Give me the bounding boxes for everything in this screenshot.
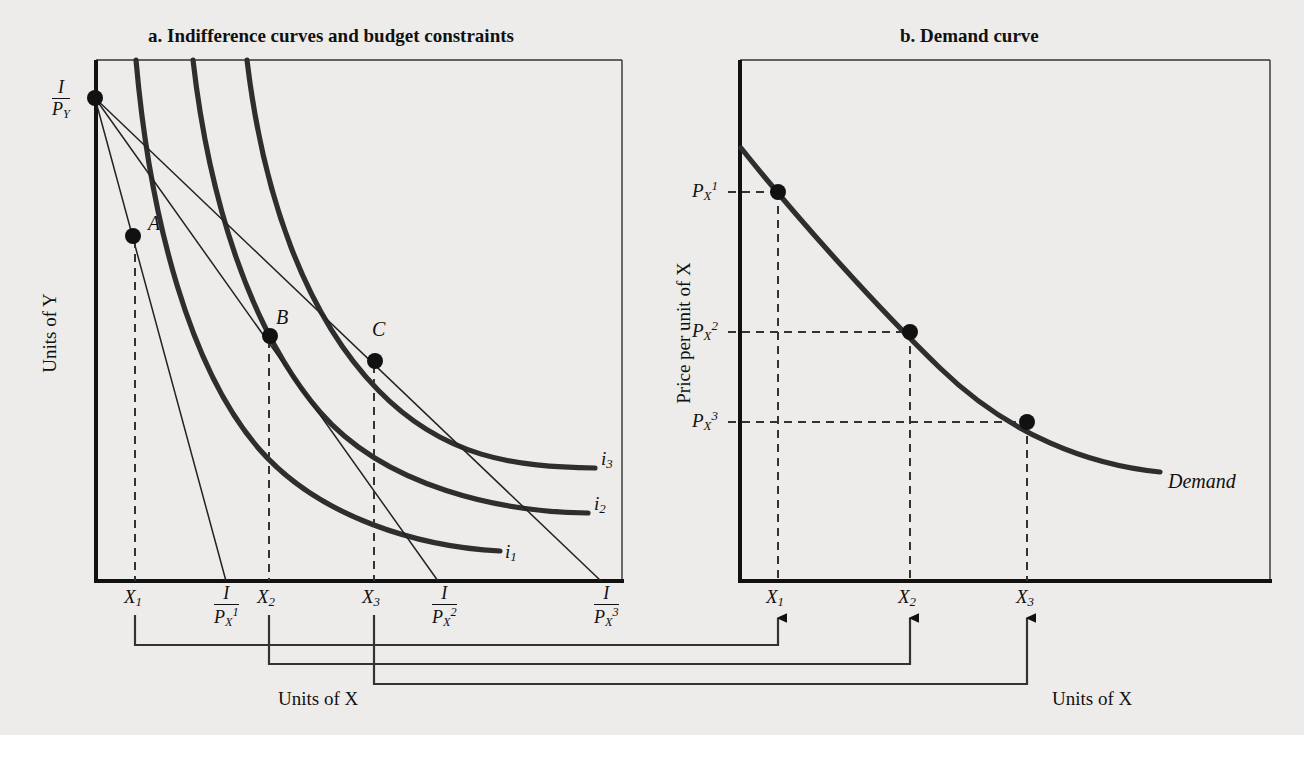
budget-constraint-2: [95, 98, 438, 581]
panel-a-xtick-x1: X1: [124, 586, 142, 610]
point-c: [367, 353, 383, 369]
indifference-curve-i3: [247, 60, 595, 468]
panel-a-points: [87, 90, 383, 369]
indifference-curve-i1: [136, 60, 500, 551]
panel-b-ytick-px1: PX1: [692, 178, 718, 204]
point-label-c: C: [372, 318, 385, 341]
panel-a-title: a. Indifference curves and budget constr…: [148, 25, 514, 47]
point-y-intercept: [87, 90, 103, 106]
point-label-b: B: [276, 306, 288, 329]
panel-b-points: [770, 184, 1035, 430]
demand-point-3: [1019, 414, 1035, 430]
connector-x3: [374, 615, 1027, 684]
indifference-curve-i2: [193, 60, 588, 513]
panel-a-xtick-i-over-px2: I PX2: [432, 584, 457, 629]
panel-b-ytick-px3: PX3: [692, 408, 718, 434]
y-intercept-denominator: PY: [52, 99, 70, 121]
panel-a-xtick-x2: X2: [257, 586, 275, 610]
panel-a-drop-lines: [135, 240, 374, 581]
panel-a-y-axis-label: Units of Y: [39, 273, 61, 393]
panel-a-y-intercept-label: I PY: [52, 78, 70, 121]
y-intercept-numerator: I: [52, 78, 70, 99]
demand-curve: [741, 148, 1160, 472]
panel-b-xtick-x1: X1: [766, 586, 784, 610]
panel-a-xtick-x3: X3: [362, 586, 380, 610]
budget-constraints: [95, 98, 601, 581]
point-label-a: A: [148, 212, 160, 235]
panel-b-x-axis-label: Units of X: [1052, 688, 1132, 710]
figure-graphics: [0, 0, 1304, 757]
panel-a-xtick-i-over-px3: I PX3: [594, 584, 619, 629]
panel-connectors: [135, 615, 1027, 684]
panel-b-xtick-x2: X2: [898, 586, 916, 610]
panel-a-x-axis-label: Units of X: [278, 688, 358, 710]
panel-a-xtick-i-over-px1: I PX1: [214, 584, 239, 629]
panel-b-ytick-px2: PX2: [692, 318, 718, 344]
demand-curve-label: Demand: [1168, 470, 1236, 493]
panel-b-frame: [738, 60, 1272, 581]
panel-a-frame: [94, 60, 624, 581]
budget-constraint-3: [95, 98, 601, 581]
panel-b-title: b. Demand curve: [900, 25, 1039, 47]
point-a: [125, 228, 141, 244]
indifference-curves: [136, 60, 595, 551]
demand-point-1: [770, 184, 786, 200]
indifference-curve-label-i2: i2: [594, 493, 606, 517]
point-b: [262, 328, 278, 344]
panel-b-guide-lines: [728, 192, 1027, 581]
connector-x2: [269, 615, 910, 664]
indifference-curve-label-i3: i3: [601, 448, 613, 472]
demand-point-2: [902, 324, 918, 340]
indifference-curve-label-i1: i1: [505, 541, 517, 565]
figure-container: a. Indifference curves and budget constr…: [0, 0, 1304, 757]
budget-constraint-1: [95, 98, 226, 581]
panel-b-xtick-x3: X3: [1016, 586, 1034, 610]
